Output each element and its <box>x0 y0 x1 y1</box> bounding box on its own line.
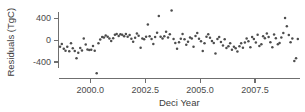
x-tick-label: 2007.5 <box>241 85 269 95</box>
data-point <box>255 41 258 44</box>
data-point <box>93 50 96 53</box>
data-point <box>297 38 300 41</box>
data-point <box>295 57 298 60</box>
data-point <box>79 47 82 50</box>
data-point <box>152 43 155 46</box>
data-point <box>176 48 179 51</box>
data-point <box>222 44 225 47</box>
data-point <box>178 41 181 44</box>
data-point <box>225 47 228 50</box>
data-point <box>59 45 62 48</box>
data-point <box>218 36 221 39</box>
data-point <box>220 41 223 44</box>
data-point <box>112 37 115 40</box>
data-point <box>275 37 278 40</box>
data-point <box>147 23 150 26</box>
data-point <box>258 45 261 48</box>
data-point <box>194 35 197 38</box>
data-point <box>139 46 142 49</box>
data-point <box>231 48 234 51</box>
data-point <box>238 45 241 48</box>
data-point <box>212 42 215 45</box>
data-point <box>77 51 80 54</box>
y-tick-label: 400 <box>36 13 51 23</box>
data-point <box>214 52 217 55</box>
y-tick-label: -400 <box>33 57 51 67</box>
data-point <box>83 37 86 40</box>
data-point <box>110 40 113 43</box>
data-point <box>63 48 66 51</box>
data-point <box>74 50 77 53</box>
data-point <box>264 37 267 40</box>
data-point <box>267 36 270 39</box>
data-point <box>198 37 201 40</box>
data-point <box>245 37 248 40</box>
y-axis-group: 4000-400 <box>33 12 59 68</box>
data-point <box>137 34 140 37</box>
data-point <box>61 43 64 46</box>
data-point <box>64 50 67 53</box>
data-point <box>123 35 126 38</box>
data-point <box>185 43 188 46</box>
data-point <box>209 37 212 40</box>
data-point <box>205 36 208 39</box>
data-point <box>242 46 245 49</box>
data-point <box>126 36 129 39</box>
data-point <box>145 36 148 39</box>
data-point <box>72 47 75 50</box>
data-point <box>90 48 93 51</box>
data-point <box>262 35 265 38</box>
data-point <box>251 36 254 39</box>
data-point <box>207 33 210 36</box>
data-point <box>170 9 173 12</box>
data-point <box>148 35 151 38</box>
data-point <box>291 37 294 40</box>
data-point <box>260 43 263 46</box>
data-point <box>271 46 274 49</box>
data-point <box>92 45 95 48</box>
data-point <box>174 42 177 45</box>
data-points-layer <box>59 9 299 74</box>
data-point <box>236 50 239 53</box>
data-point <box>165 31 168 33</box>
data-point <box>159 36 162 39</box>
data-point <box>103 36 106 39</box>
data-point <box>169 33 172 36</box>
data-point <box>70 42 73 45</box>
data-point <box>108 37 111 40</box>
data-point <box>191 37 194 40</box>
y-axis-title: Residuals (TgC) <box>5 8 16 77</box>
data-point <box>234 47 237 50</box>
data-point <box>253 38 256 41</box>
data-point <box>256 34 259 37</box>
data-point <box>84 43 87 46</box>
data-point <box>247 40 250 43</box>
data-point <box>163 35 166 38</box>
data-point <box>278 42 281 45</box>
data-point <box>158 15 161 17</box>
data-point <box>125 33 128 36</box>
data-point <box>196 32 199 35</box>
data-point <box>266 32 269 35</box>
data-point <box>68 50 71 53</box>
data-point <box>223 38 226 41</box>
data-point <box>95 72 98 75</box>
data-point <box>203 42 206 45</box>
data-point <box>227 45 230 48</box>
data-point <box>134 37 137 40</box>
data-point <box>192 45 195 48</box>
data-point <box>273 33 276 36</box>
y-tick-labels: 4000-400 <box>33 13 51 67</box>
x-axis-group: 2000.02002.52005.02007.5 <box>59 79 301 95</box>
data-point <box>115 33 118 36</box>
x-tick-label: 2000.0 <box>77 85 105 95</box>
x-axis-title: Deci Year <box>159 97 200 108</box>
x-tick-labels: 2000.02002.52005.02007.5 <box>77 85 269 95</box>
x-tick-label: 2002.5 <box>131 85 159 95</box>
data-point <box>249 46 252 49</box>
data-point <box>211 40 214 43</box>
data-point <box>167 36 170 39</box>
data-point <box>282 32 285 35</box>
data-point <box>244 41 247 44</box>
y-tick-marks <box>54 18 59 62</box>
